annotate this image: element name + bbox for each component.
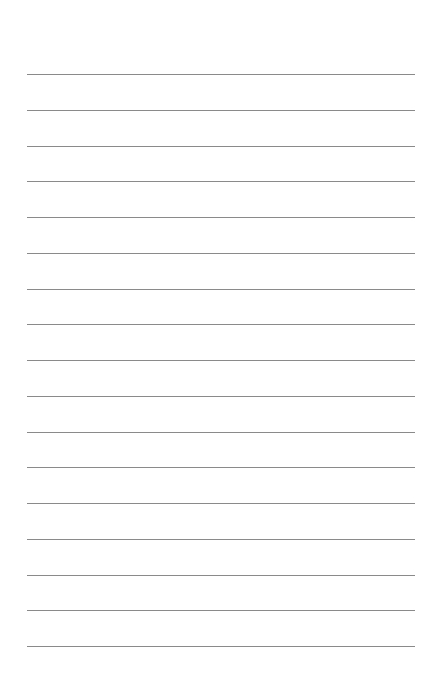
ruled-line: [27, 181, 415, 182]
ruled-line: [27, 610, 415, 611]
lined-paper-page: [0, 0, 429, 684]
ruled-line: [27, 110, 415, 111]
ruled-line: [27, 396, 415, 397]
ruled-line: [27, 360, 415, 361]
ruled-line: [27, 217, 415, 218]
ruled-line: [27, 324, 415, 325]
ruled-line: [27, 432, 415, 433]
ruled-line: [27, 539, 415, 540]
ruled-line: [27, 74, 415, 75]
ruled-line: [27, 289, 415, 290]
ruled-line: [27, 503, 415, 504]
ruled-line: [27, 575, 415, 576]
ruled-line: [27, 146, 415, 147]
ruled-line: [27, 467, 415, 468]
ruled-line: [27, 646, 415, 647]
ruled-line: [27, 253, 415, 254]
